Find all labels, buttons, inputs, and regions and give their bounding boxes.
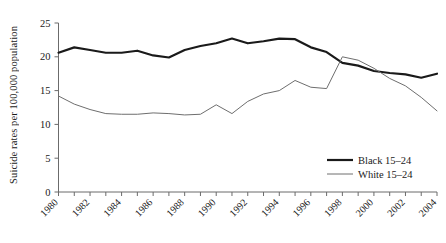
y-tick-label: 25 [40,18,51,29]
chart-legend: Black 15–24White 15–24 [327,155,413,180]
x-tick-label: 2000 [353,197,375,219]
x-tick-label: 1984 [101,197,123,219]
x-tick-label: 2002 [385,197,407,219]
series-lines [59,39,438,115]
chart-svg: 0510152025 19801982198419861988199019921… [0,0,446,243]
x-tick-label: 1998 [322,197,344,219]
chart-container: Suicide rates per 100,000 population 051… [0,0,446,243]
x-tick-label: 1988 [164,197,186,219]
x-tick-label: 1982 [70,197,92,219]
y-tick-label: 5 [45,153,50,164]
y-tick-label: 20 [40,51,51,62]
x-tick-label: 2004 [416,197,438,219]
x-tick-label: 1980 [38,197,60,219]
y-tick-label: 15 [40,85,51,96]
x-tick-label: 1996 [290,197,312,219]
legend-label-1: White 15–24 [358,169,413,180]
x-tick-label: 1994 [259,197,281,219]
y-tick-label: 10 [40,119,51,130]
x-tick-label: 1990 [196,197,218,219]
y-axis-ticks: 0510152025 [40,18,59,198]
y-tick-label: 0 [45,187,50,198]
x-tick-label: 1986 [133,197,155,219]
x-tick-label: 1992 [227,197,249,219]
x-axis-ticks: 1980198219841986198819901992199419961998… [38,192,438,219]
series-line-1 [59,57,438,115]
legend-label-0: Black 15–24 [358,155,412,166]
